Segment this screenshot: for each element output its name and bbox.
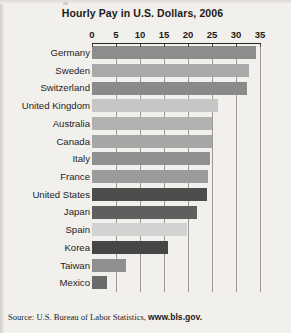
x-tick-label-5: 5 [113, 29, 118, 40]
bar-row[interactable]: Spain [0, 221, 291, 239]
bar-row[interactable]: Japan [0, 203, 291, 221]
bar-row[interactable]: United Kingdom [0, 97, 291, 115]
x-tick-mark-0 [92, 44, 93, 47]
bar-sweden[interactable] [92, 64, 249, 77]
bar-row[interactable]: Taiwan [0, 257, 291, 275]
x-tick-label-30: 30 [231, 29, 242, 40]
x-tick-label-25: 25 [207, 29, 218, 40]
bar-row[interactable]: Australia [0, 115, 291, 133]
bar-row[interactable]: Switzerland [0, 79, 291, 97]
bar-united-kingdom[interactable] [92, 99, 218, 112]
bar-row[interactable]: Korea [0, 239, 291, 257]
category-label-taiwan: Taiwan [0, 259, 90, 272]
bar-france[interactable] [92, 170, 208, 183]
x-tick-mark-30 [236, 44, 237, 47]
x-tick-mark-35 [260, 44, 261, 47]
bar-italy[interactable] [92, 152, 210, 165]
x-tick-mark-5 [116, 44, 117, 47]
bar-taiwan[interactable] [92, 259, 126, 272]
bar-australia[interactable] [92, 117, 212, 130]
category-label-mexico: Mexico [0, 276, 90, 289]
source-url[interactable]: www.bls.gov. [148, 312, 202, 322]
bar-japan[interactable] [92, 206, 197, 219]
category-label-germany: Germany [0, 46, 90, 59]
bar-rows: GermanySwedenSwitzerlandUnited KingdomAu… [0, 44, 291, 292]
x-tick-mark-10 [140, 44, 141, 47]
source-note: Source: U.S. Bureau of Labor Statistics,… [8, 312, 202, 322]
source-prefix: Source: U.S. Bureau of Labor Statistics, [8, 312, 148, 322]
category-label-united-states: United States [0, 188, 90, 201]
bar-row[interactable]: United States [0, 186, 291, 204]
category-label-united-kingdom: United Kingdom [0, 99, 90, 112]
bar-united-states[interactable] [92, 188, 207, 201]
bar-row[interactable]: Germany [0, 44, 291, 62]
bar-germany[interactable] [92, 46, 256, 59]
x-tick-label-20: 20 [183, 29, 194, 40]
x-tick-label-35: 35 [255, 29, 266, 40]
bar-canada[interactable] [92, 135, 212, 148]
bar-row[interactable]: France [0, 168, 291, 186]
category-label-italy: Italy [0, 152, 90, 165]
x-tick-label-10: 10 [135, 29, 146, 40]
bar-row[interactable]: Sweden [0, 62, 291, 80]
bar-mexico[interactable] [92, 276, 107, 289]
x-tick-label-15: 15 [159, 29, 170, 40]
category-label-sweden: Sweden [0, 64, 90, 77]
bar-chart-figure: Hourly Pay in U.S. Dollars, 2006 0510152… [0, 0, 291, 333]
bar-row[interactable]: Italy [0, 150, 291, 168]
x-tick-mark-20 [188, 44, 189, 47]
bar-spain[interactable] [92, 223, 187, 236]
category-label-japan: Japan [0, 205, 90, 218]
x-tick-mark-25 [212, 44, 213, 47]
x-tick-mark-15 [164, 44, 165, 47]
bar-korea[interactable] [92, 241, 168, 254]
bar-switzerland[interactable] [92, 82, 247, 95]
x-tick-label-0: 0 [89, 29, 94, 40]
x-axis-tick-labels: 05101520253035 [0, 29, 291, 42]
category-label-canada: Canada [0, 135, 90, 148]
bar-row[interactable]: Mexico [0, 274, 291, 292]
category-label-spain: Spain [0, 223, 90, 236]
chart-title: Hourly Pay in U.S. Dollars, 2006 [0, 7, 285, 19]
category-label-australia: Australia [0, 117, 90, 130]
bar-row[interactable]: Canada [0, 133, 291, 151]
category-label-switzerland: Switzerland [0, 81, 90, 94]
category-label-korea: Korea [0, 241, 90, 254]
category-label-france: France [0, 170, 90, 183]
